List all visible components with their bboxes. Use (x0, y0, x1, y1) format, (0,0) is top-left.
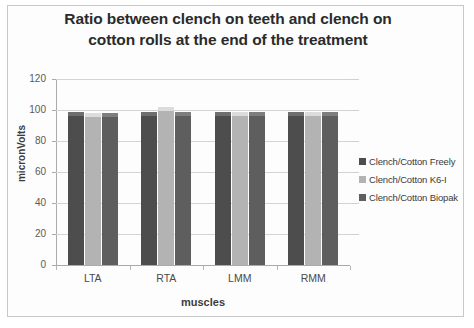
bar-lta-series-1 (68, 112, 84, 265)
x-axis-tick-label: RTA (129, 272, 203, 284)
bar-body (322, 112, 338, 265)
chart-title-line-1: Ratio between clench on teeth and clench… (18, 8, 438, 29)
bar-cap (288, 112, 304, 116)
bar-cap (305, 112, 321, 116)
bar-body (68, 112, 84, 265)
bar-cap (158, 107, 174, 111)
bar-body (232, 112, 248, 265)
gridline-stub (350, 203, 359, 204)
bar-rta-series-1 (141, 112, 157, 265)
bar-cap (85, 113, 101, 117)
y-axis-tick-label: 20 (10, 228, 46, 239)
bar-lmm-series-1 (215, 112, 231, 265)
bar-body (215, 112, 231, 265)
bar-body (249, 112, 265, 265)
bar-cap (232, 112, 248, 116)
legend-item-3[interactable]: Clench/Cotton Biopak (359, 188, 471, 206)
bar-rmm-series-1 (288, 112, 304, 265)
bar-rmm-series-2 (305, 112, 321, 265)
bar-cap (249, 112, 265, 116)
chart-title-line-2: cotton rolls at the end of the treatment (18, 29, 438, 50)
x-axis-tick (56, 266, 57, 270)
bar-body (102, 113, 118, 265)
bar-rta-series-2 (158, 107, 174, 265)
bar-cap (141, 112, 157, 116)
legend-swatch-icon (359, 158, 366, 165)
chart-title: Ratio between clench on teeth and clench… (18, 8, 438, 50)
bar-cap (215, 112, 231, 116)
y-axis-tick-label: 60 (10, 166, 46, 177)
y-axis-tick-label: 40 (10, 197, 46, 208)
legend-swatch-icon (359, 176, 366, 183)
gridline-stub (350, 172, 359, 173)
plot-area (56, 79, 350, 265)
bar-body (85, 113, 101, 265)
bar-body (141, 112, 157, 265)
x-axis-tick (277, 266, 278, 270)
gridline-stub (350, 141, 359, 142)
gridline-stub (350, 79, 359, 80)
bar-lta-series-3 (102, 113, 118, 265)
legend-item-label: Clench/Cotton Biopak (369, 192, 458, 203)
legend-swatch-icon (359, 194, 366, 201)
bar-body (305, 112, 321, 265)
x-axis-tick-label: RMM (276, 272, 350, 284)
bar-cap (68, 112, 84, 116)
bar-lmm-series-2 (232, 112, 248, 265)
bar-cap (175, 112, 191, 116)
bar-cap (322, 112, 338, 116)
legend-item-1[interactable]: Clench/Cotton Freely (359, 152, 471, 170)
bar-lta-series-2 (85, 113, 101, 265)
chart-legend: Clench/Cotton FreelyClench/Cotton K6-ICl… (359, 152, 471, 206)
y-axis-tick-label: 80 (10, 135, 46, 146)
bar-body (175, 112, 191, 265)
bar-lmm-series-3 (249, 112, 265, 265)
bar-rta-series-3 (175, 112, 191, 265)
x-axis-tick (350, 266, 351, 270)
bar-body (158, 107, 174, 265)
bar-cap (102, 113, 118, 117)
gridline-stub (350, 110, 359, 111)
gridline-stub (350, 234, 359, 235)
x-axis-tick (203, 266, 204, 270)
y-axis-title: micronVolts (16, 109, 27, 199)
bar-rmm-series-3 (322, 112, 338, 265)
y-axis-tick-label: 100 (10, 104, 46, 115)
x-axis-title: muscles (56, 296, 350, 308)
legend-item-label: Clench/Cotton K6-I (369, 174, 447, 185)
bar-body (288, 112, 304, 265)
y-axis-tick-label: 120 (10, 73, 46, 84)
x-axis-tick (130, 266, 131, 270)
gridline (56, 79, 350, 80)
legend-item-2[interactable]: Clench/Cotton K6-I (359, 170, 471, 188)
y-axis-tick-label: 0 (10, 259, 46, 270)
x-axis-tick-label: LTA (56, 272, 130, 284)
x-axis-tick-label: LMM (203, 272, 277, 284)
legend-item-label: Clench/Cotton Freely (369, 156, 455, 167)
